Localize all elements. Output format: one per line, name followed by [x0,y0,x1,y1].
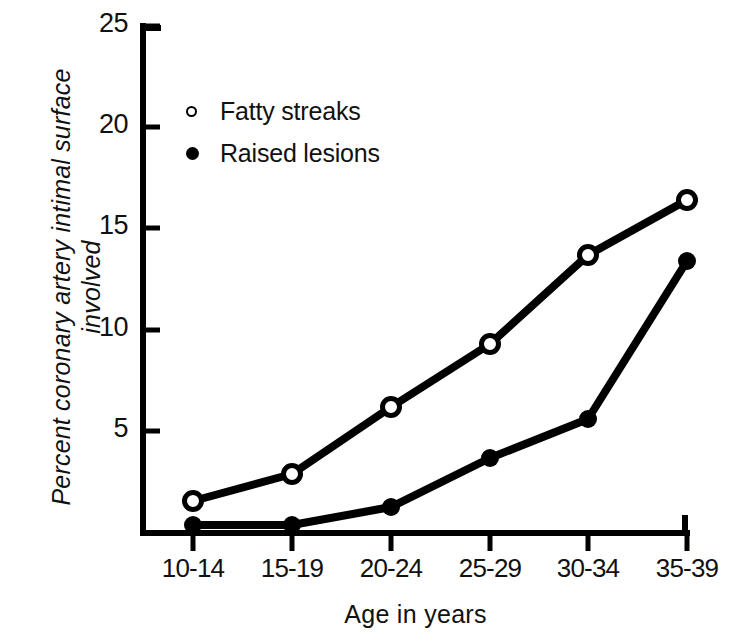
data-point-raised-30-34 [579,410,597,428]
x-tick-label-10-14: 10-14 [141,553,245,584]
data-point-fatty-15-19 [284,466,301,483]
legend-label-fatty-streaks: Fatty streaks [220,97,361,126]
data-point-fatty-35-39 [679,192,696,209]
series-fatty-streaks [185,192,696,510]
filled-circle-icon [186,147,208,160]
legend-item-raised-lesions: Raised lesions [186,139,380,167]
series-fatty-streaks-line [193,200,687,501]
data-point-raised-15-19 [283,516,301,534]
data-point-raised-25-29 [481,449,499,467]
y-tick-label-20: 20 [68,109,128,140]
y-tick-label-25: 25 [68,8,128,39]
x-tick-label-30-34: 30-34 [536,553,640,584]
open-circle-icon [186,106,208,117]
data-point-fatty-25-29 [482,336,499,353]
chart-legend: Fatty streaks Raised lesions [186,97,380,167]
y-tick-label-5: 5 [68,413,128,444]
y-tick-label-15: 15 [68,210,128,241]
data-point-raised-20-24 [382,498,400,516]
x-tick-label-35-39: 35-39 [635,553,735,584]
legend-label-raised-lesions: Raised lesions [220,139,380,168]
series-raised-lesions [184,252,696,534]
x-tick-label-15-19: 15-19 [240,553,344,584]
series-raised-lesions-line [193,261,687,525]
legend-item-fatty-streaks: Fatty streaks [186,97,380,125]
data-point-raised-35-39 [678,252,696,270]
data-point-fatty-30-34 [580,247,597,264]
y-tick-label-10: 10 [68,312,128,343]
data-point-fatty-20-24 [383,399,400,416]
series-raised-lesions-markers [184,252,696,534]
x-tick-label-25-29: 25-29 [438,553,542,584]
chart-figure: 25 20 15 10 5 10-14 15-19 20-24 25-29 30… [0,0,735,644]
data-point-fatty-10-14 [185,493,202,510]
x-tick-label-20-24: 20-24 [339,553,443,584]
data-point-raised-10-14 [184,516,202,534]
x-axis-title: Age in years [143,600,688,629]
